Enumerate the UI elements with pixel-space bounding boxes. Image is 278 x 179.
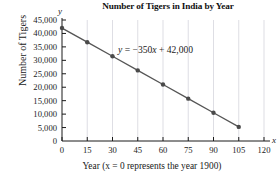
x-tick-label: 75 <box>184 145 193 155</box>
y-axis-variable: y <box>57 6 62 16</box>
y-tick-label: 20,000 <box>33 82 57 92</box>
y-tick-label: 35,000 <box>33 42 57 52</box>
data-point <box>110 54 114 58</box>
data-point <box>237 125 241 129</box>
y-tick-label: 25,000 <box>33 69 57 79</box>
x-tick-label: 15 <box>83 145 92 155</box>
y-tick-label: 10,000 <box>33 109 57 119</box>
y-tick-label: 45,000 <box>33 15 57 25</box>
data-point <box>186 96 190 100</box>
y-tick-label: 30,000 <box>33 55 57 65</box>
x-tick-label: 0 <box>60 145 64 155</box>
y-tick-labels: 05,00010,00015,00020,00025,00030,00035,0… <box>33 15 57 146</box>
plot-area: y x 05,00010,00015,00020,00025,00030,000… <box>0 0 278 179</box>
data-point <box>60 26 64 30</box>
chart-figure: Number of Tigers in India by Year Number… <box>0 0 278 179</box>
x-tick-label: 45 <box>133 145 142 155</box>
y-axis-ticks <box>62 20 66 128</box>
y-tick-label: 0 <box>53 136 57 146</box>
y-tick-label: 5,000 <box>38 123 57 133</box>
x-tick-label: 120 <box>258 145 271 155</box>
x-tick-label: 30 <box>108 145 117 155</box>
data-point <box>211 111 215 115</box>
x-tick-label: 105 <box>232 145 245 155</box>
gridlines <box>87 20 264 141</box>
x-axis-ticks <box>62 137 264 141</box>
x-tick-label: 90 <box>209 145 218 155</box>
x-axis-variable: x <box>271 135 276 145</box>
data-point <box>85 40 89 44</box>
y-tick-label: 15,000 <box>33 96 57 106</box>
data-point <box>136 68 140 72</box>
x-tick-label: 60 <box>159 145 168 155</box>
x-tick-labels: 0153045607590105120 <box>60 145 271 155</box>
data-point <box>161 82 165 86</box>
y-tick-label: 40,000 <box>33 28 57 38</box>
